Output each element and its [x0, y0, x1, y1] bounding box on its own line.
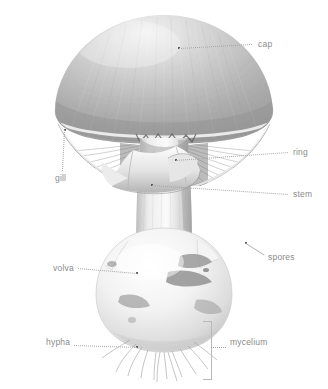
label-mycelium: mycelium	[230, 337, 268, 347]
mycelium-bracket	[203, 321, 212, 380]
label-cap: cap	[258, 39, 272, 49]
mushroom-illustration	[0, 0, 328, 389]
leader-line-mycelium	[211, 347, 226, 348]
label-hypha: hypha	[46, 337, 70, 347]
mushroom-cap	[55, 15, 273, 150]
mushroom-anatomy-figure: cap gill ring stem spores volva hypha my…	[0, 0, 328, 389]
label-gill: gill	[55, 173, 66, 183]
label-stem: stem	[293, 189, 312, 199]
label-volva: volva	[53, 263, 74, 273]
label-spores: spores	[268, 252, 295, 262]
label-ring: ring	[293, 147, 308, 157]
